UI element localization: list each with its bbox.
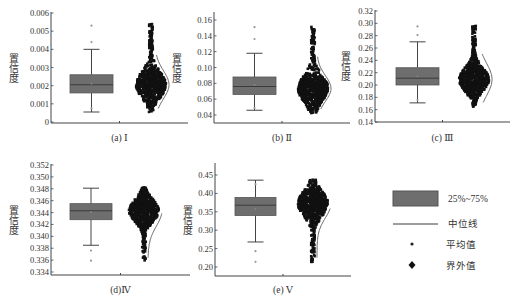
y-tick-label: 0.45 xyxy=(198,170,213,180)
outlier-dot xyxy=(254,261,256,263)
legend-mean-dot-icon xyxy=(410,242,413,245)
mean-dot xyxy=(254,84,256,86)
y-tick-label: 0.340 xyxy=(30,231,49,241)
outlier-dot xyxy=(254,250,256,252)
y-tick-label: 0.35 xyxy=(198,207,213,217)
legend-label-mean: 平均值 xyxy=(446,239,476,250)
y-tick-label: 0.30 xyxy=(358,18,373,28)
y-tick-label: 0.344 xyxy=(30,208,50,218)
panel-caption: (a) Ⅰ xyxy=(111,133,128,144)
y-axis-label: 置信度 xyxy=(8,53,19,84)
mean-dot xyxy=(255,208,257,210)
outlier-dot xyxy=(254,183,256,185)
y-tick-label: 0.002 xyxy=(30,81,49,91)
panel-c-chart: 0.140.160.180.200.220.240.260.280.300.32… xyxy=(340,6,511,144)
iqr-box xyxy=(235,197,276,215)
panel-d-chart: 0.3340.3360.3380.3400.3420.3440.3460.348… xyxy=(8,160,191,296)
y-tick-label: 0.10 xyxy=(197,63,212,73)
outlier-dot xyxy=(90,25,92,27)
y-tick-label: 0.32 xyxy=(358,6,373,16)
y-tick-label: 0.346 xyxy=(30,196,49,206)
outlier-dot xyxy=(253,107,255,109)
legend-label-box: 25%~75% xyxy=(448,194,488,204)
outlier-dot xyxy=(90,41,92,43)
y-tick-label: 0.334 xyxy=(30,267,50,277)
y-tick-label: 0.005 xyxy=(30,26,49,36)
y-tick-label: 0.22 xyxy=(358,68,373,78)
scatter-cloud xyxy=(297,26,329,115)
scatter-cloud xyxy=(458,25,490,108)
scatter-cloud xyxy=(297,179,329,264)
mean-dot xyxy=(91,83,93,85)
y-tick-label: 0.352 xyxy=(30,160,49,170)
y-tick-label: 0.336 xyxy=(30,255,49,265)
panel-caption: (c) Ⅲ xyxy=(431,133,453,144)
y-tick-label: 0.08 xyxy=(197,78,212,88)
y-tick-label: 0.26 xyxy=(358,43,373,53)
y-axis-label: 置信度 xyxy=(340,51,351,82)
y-tick-label: 0.06 xyxy=(197,94,212,104)
y-tick-label: 0.003 xyxy=(30,63,49,73)
y-tick-label: 0.338 xyxy=(30,243,49,253)
y-tick-label: 0.04 xyxy=(197,110,213,120)
panel-e-chart: 0.200.250.300.350.400.45置信度(e) Ⅴ xyxy=(182,163,352,296)
outlier-dot xyxy=(90,107,92,109)
y-tick-label: 0 xyxy=(45,117,49,127)
y-axis-label: 置信度 xyxy=(182,205,193,236)
legend-label-median: 中位线 xyxy=(448,218,478,229)
y-tick-label: 0.342 xyxy=(30,219,49,229)
panel-caption: (e) Ⅴ xyxy=(273,285,293,296)
y-tick-label: 0.004 xyxy=(30,44,50,54)
y-tick-label: 0.18 xyxy=(358,92,373,102)
y-axis-label: 置信度 xyxy=(171,53,182,84)
y-tick-label: 0.348 xyxy=(30,184,49,194)
outlier-dot xyxy=(416,34,418,36)
y-tick-label: 0.006 xyxy=(30,8,49,18)
y-tick-label: 0.40 xyxy=(198,188,213,198)
legend: 25%~75% 中位线 平均值 界外值 xyxy=(393,191,488,271)
y-tick-label: 0.001 xyxy=(30,99,49,109)
boxplot-figure: 00.0010.0020.0030.0040.0050.006置信度(a) Ⅰ … xyxy=(0,0,513,305)
y-tick-label: 0.28 xyxy=(358,31,373,41)
outlier-dot xyxy=(253,38,255,40)
y-tick-label: 0.30 xyxy=(198,225,213,235)
panel-caption: (d)Ⅳ xyxy=(110,285,131,296)
scatter-cloud xyxy=(128,186,160,261)
outlier-dot xyxy=(416,99,418,101)
mean-dot xyxy=(417,75,419,77)
y-tick-label: 0.20 xyxy=(198,262,213,272)
y-tick-label: 0.16 xyxy=(358,105,373,115)
outlier-dot xyxy=(253,26,255,28)
y-tick-label: 0.14 xyxy=(197,31,213,41)
outlier-dot xyxy=(90,250,92,252)
outlier-dot xyxy=(416,25,418,27)
y-tick-label: 0.350 xyxy=(30,172,49,182)
y-tick-label: 0.25 xyxy=(198,244,213,254)
panel-caption: (b) Ⅱ xyxy=(272,133,292,144)
panel-a-chart: 00.0010.0020.0030.0040.0050.006置信度(a) Ⅰ xyxy=(8,8,189,144)
y-axis-label: 置信度 xyxy=(8,205,19,236)
outlier-dot xyxy=(90,260,92,262)
y-tick-label: 0.12 xyxy=(197,47,212,57)
y-tick-label: 0.24 xyxy=(358,55,374,65)
panel-b-chart: 0.040.060.080.100.120.140.16置信度(b) Ⅱ xyxy=(171,12,351,144)
legend-box-swatch xyxy=(393,191,438,206)
y-tick-label: 0.16 xyxy=(197,15,212,25)
y-tick-label: 0.14 xyxy=(358,117,374,127)
mean-dot xyxy=(90,211,92,213)
legend-label-outlier: 界外值 xyxy=(446,260,476,271)
legend-outlier-diamond-icon xyxy=(409,261,416,269)
y-tick-label: 0.20 xyxy=(358,80,373,90)
